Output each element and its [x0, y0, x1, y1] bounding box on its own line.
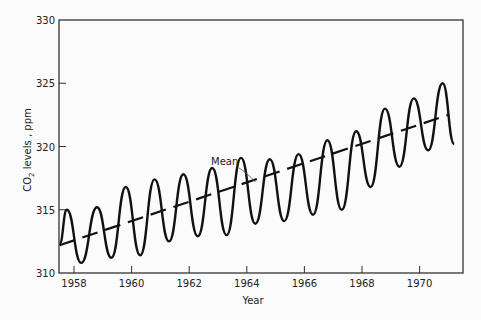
y-tick-label: 315 [36, 205, 55, 216]
x-tick-label: 1964 [234, 278, 259, 289]
x-tick-label: 1968 [349, 278, 374, 289]
co2-chart: 3103153203253301958196019621964196619681… [0, 0, 481, 320]
x-tick-label: 1966 [292, 278, 317, 289]
x-tick-label: 1960 [119, 278, 144, 289]
axes: 3103153203253301958196019621964196619681… [36, 15, 463, 289]
y-tick-label: 310 [36, 268, 55, 279]
y-tick-label: 325 [36, 78, 55, 89]
y-tick-label: 320 [36, 142, 55, 153]
plot-marks [60, 83, 455, 263]
x-tick-label: 1962 [176, 278, 201, 289]
x-axis-title: Year [241, 295, 264, 306]
annotation-group: Mean [211, 156, 255, 182]
x-tick-label: 1958 [61, 278, 86, 289]
y-axis-title: CO2 levels , ppm [22, 108, 36, 191]
co2-monthly-line [60, 83, 455, 263]
x-tick-label: 1970 [407, 278, 432, 289]
y-axis-title-suffix: levels , ppm [22, 108, 33, 172]
mean-annotation-label: Mean [211, 156, 238, 167]
plot-frame [59, 20, 463, 273]
y-tick-label: 330 [36, 15, 55, 26]
y-axis-title-prefix: CO [22, 177, 33, 192]
